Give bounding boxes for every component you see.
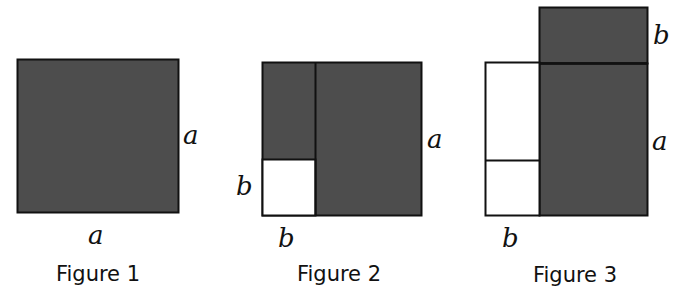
figure-1-right-label: a (183, 120, 199, 150)
figure-1-bottom-label: a (88, 220, 104, 250)
figure-3-caption: Figure 3 (533, 263, 617, 287)
figures-canvas: a a Figure 1 a b b Figure 2 b a b Figure… (0, 0, 680, 295)
figure-2-left-label: b (236, 171, 253, 201)
figure-2-right-label: a (427, 124, 443, 154)
figure-1-caption: Figure 1 (56, 262, 140, 286)
figure-2-cutout-square-b-by-b (263, 160, 316, 216)
figure-3-right-label: a (652, 126, 668, 156)
figure-1: a a Figure 1 (18, 60, 199, 287)
figure-3-top-right-label: b (653, 20, 670, 50)
figure-3: b a b Figure 3 (486, 8, 670, 288)
figure-3-bottom-label: b (502, 223, 519, 253)
figure-2: a b b Figure 2 (236, 63, 443, 287)
figure-3-moved-strip (540, 8, 648, 64)
figure-2-caption: Figure 2 (297, 262, 381, 286)
figure-2-bottom-label: b (278, 223, 295, 253)
figure-3-main-rectangle (540, 64, 648, 216)
figure-1-square-a-by-a (18, 60, 179, 213)
figure-3-empty-column (486, 63, 540, 216)
